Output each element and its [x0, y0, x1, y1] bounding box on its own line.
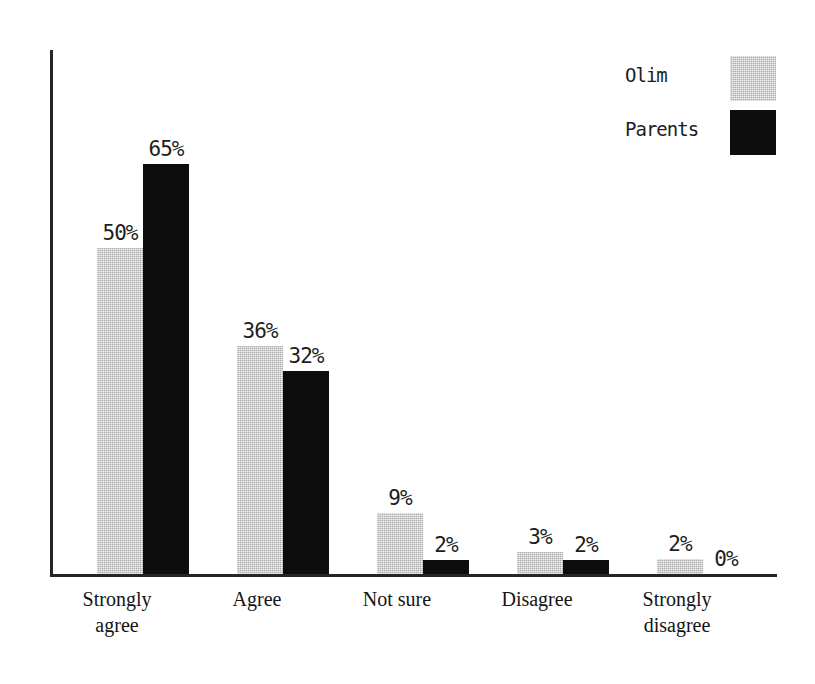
x-tick-label-line: Agree [182, 586, 332, 612]
bar-value-label: 65% [149, 139, 184, 160]
bar-olim-strongly-agree[interactable]: 50% [97, 248, 143, 574]
legend: Olim Parents [625, 50, 790, 158]
legend-item-parents[interactable]: Parents [625, 104, 790, 158]
bar-group-strongly-agree: 50% 65% [53, 50, 193, 574]
x-tick-label-agree: Agree [182, 586, 332, 612]
bar-parents-not-sure[interactable]: 2% [423, 560, 469, 574]
x-tick-label-line: Strongly [602, 586, 752, 612]
x-tick-label-strongly-agree: Strongly agree [42, 586, 192, 639]
x-tick-label-disagree: Disagree [462, 586, 612, 612]
bar-value-label: 50% [103, 223, 138, 244]
bar-parents-agree[interactable]: 32% [283, 371, 329, 574]
legend-label-olim: Olim [625, 64, 667, 86]
bar-value-label: 2% [574, 535, 597, 556]
x-tick-label-not-sure: Not sure [322, 586, 472, 612]
bar-value-label: 2% [434, 535, 457, 556]
x-axis-line [50, 574, 777, 577]
bar-value-label: 36% [243, 321, 278, 342]
x-tick-label-line: Not sure [322, 586, 472, 612]
bar-group-not-sure: 9% 2% [333, 50, 473, 574]
bar-parents-disagree[interactable]: 2% [563, 560, 609, 574]
x-tick-label-line: agree [42, 612, 192, 638]
bar-olim-not-sure[interactable]: 9% [377, 513, 423, 574]
bar-value-label: 2% [668, 534, 691, 555]
x-tick-label-line: disagree [602, 612, 752, 638]
bar-parents-strongly-agree[interactable]: 65% [143, 164, 189, 574]
bar-value-label: 0% [714, 549, 737, 570]
bar-group-disagree: 3% 2% [473, 50, 613, 574]
x-tick-label-strongly-disagree: Strongly disagree [602, 586, 752, 639]
bar-value-label: 32% [289, 346, 324, 367]
bar-olim-disagree[interactable]: 3% [517, 552, 563, 574]
bar-value-label: 9% [388, 488, 411, 509]
bar-olim-strongly-disagree[interactable]: 2% [657, 559, 703, 574]
bar-value-label: 3% [528, 527, 551, 548]
x-tick-label-line: Strongly [42, 586, 192, 612]
legend-label-parents: Parents [625, 118, 698, 140]
gray-hatched-swatch-icon [730, 56, 776, 101]
x-tick-label-line: Disagree [462, 586, 612, 612]
legend-item-olim[interactable]: Olim [625, 50, 790, 104]
black-swatch-icon [730, 110, 776, 155]
bar-group-agree: 36% 32% [193, 50, 333, 574]
bar-chart: 50% 65% 36% 32% 9% 2% [0, 0, 815, 684]
bar-olim-agree[interactable]: 36% [237, 346, 283, 574]
